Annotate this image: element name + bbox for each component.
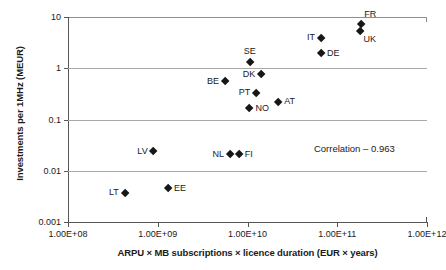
x-tick-label-1: 1.00E+09 (138, 229, 177, 239)
correlation-annotation: Correlation – 0.963 (314, 143, 395, 154)
diamond-marker-icon (120, 188, 129, 197)
diamond-marker-icon (317, 33, 326, 42)
y-tick-label-0.01: 0.01 (43, 166, 61, 176)
y-tick-label-10: 10 (51, 12, 61, 22)
diamond-marker-icon (220, 77, 229, 86)
data-point-label-it: IT (307, 33, 315, 42)
x-axis-title: ARPU × MB subscriptions × licence durati… (68, 247, 427, 258)
data-point-label-fr: FR (364, 10, 376, 19)
data-point-label-de: DE (327, 49, 340, 58)
diamond-marker-icon (234, 150, 243, 159)
gridline-y-0.1 (68, 120, 427, 121)
x-tick-4 (427, 222, 428, 227)
x-tick-label-2: 1.00E+10 (228, 229, 267, 239)
plot-frame-right-top-tick (426, 17, 427, 22)
diamond-marker-icon (274, 97, 283, 106)
x-tick-0 (68, 222, 69, 227)
data-point-label-pt: PT (239, 88, 251, 97)
data-point-label-at: AT (284, 97, 295, 106)
data-point-label-uk: UK (364, 35, 377, 44)
diamond-marker-icon (226, 150, 235, 159)
y-tick-10: 10 (64, 17, 68, 18)
data-point-label-fi: FI (245, 150, 253, 159)
diamond-marker-icon (317, 49, 326, 58)
y-tick-label-0.1: 0.1 (48, 115, 61, 125)
y-tick-0.01: 0.01 (64, 171, 68, 172)
x-tick-3 (337, 222, 338, 227)
x-tick-label-3: 1.00E+11 (318, 229, 356, 239)
diamond-marker-icon (163, 184, 172, 193)
data-point-label-no: NO (255, 104, 269, 113)
y-tick-0.1: 0.1 (64, 120, 68, 121)
x-tick-label-0: 1.00E+08 (49, 229, 88, 239)
y-tick-1: 1 (64, 68, 68, 69)
diamond-marker-icon (257, 70, 266, 79)
y-tick-label-1: 1 (56, 63, 61, 73)
data-point-label-ee: EE (174, 184, 186, 193)
plot-area: 1010.10.010.001 1.00E+081.00E+091.00E+10… (68, 17, 427, 222)
data-point-label-lv: LV (137, 147, 147, 156)
diamond-marker-icon (252, 88, 261, 97)
x-tick-1 (158, 222, 159, 227)
x-tick-label-4: 1.00E+12 (408, 229, 446, 239)
data-point-label-dk: DK (243, 70, 256, 79)
y-tick-label-0.001: 0.001 (38, 217, 61, 227)
diamond-marker-icon (245, 58, 254, 67)
diamond-marker-icon (245, 104, 254, 113)
x-tick-2 (248, 222, 249, 227)
y-axis-title: Investments per 1MHz (MEUR) (14, 9, 25, 219)
gridline-y-0.01 (68, 171, 427, 172)
diamond-marker-icon (149, 147, 158, 156)
data-point-label-nl: NL (213, 150, 225, 159)
data-point-label-se: SE (244, 47, 256, 56)
data-point-label-be: BE (207, 77, 219, 86)
data-point-label-lt: LT (109, 188, 119, 197)
